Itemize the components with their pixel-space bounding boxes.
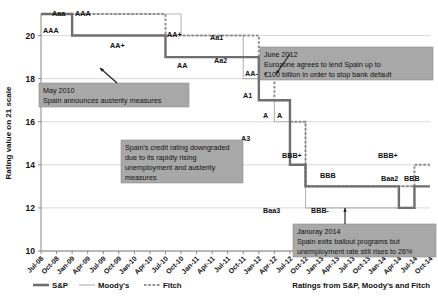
annotation-text-credit-downgrade-2: unemployment and austerity <box>125 163 216 172</box>
point-label-5: Aa1 <box>210 33 223 42</box>
xtick-label-11: Apr-11 <box>196 255 217 276</box>
ytick-label-12: 12 <box>26 203 36 213</box>
point-label-16: BBB <box>320 171 336 180</box>
ytick-label-18: 18 <box>26 74 36 84</box>
legend-item-moodys[interactable]: Moody's <box>79 281 130 290</box>
point-label-14: BBB+ <box>282 151 302 160</box>
legend-label-1: Moody's <box>98 281 130 290</box>
point-label-4: AA+ <box>167 30 182 39</box>
point-label-7: Aa2 <box>214 56 227 65</box>
point-label-6: AA <box>177 61 187 70</box>
ytick-label-14: 14 <box>26 160 36 170</box>
point-label-3: AA+ <box>110 41 125 50</box>
point-label-20: BBB- <box>311 206 330 215</box>
annotation-text-june-2012-0: June 2012 <box>264 50 298 59</box>
point-label-8: AA- <box>245 69 258 78</box>
point-label-15: BBB+ <box>378 151 398 160</box>
annotation-text-january-2014-2: unemployment rate still rises to 26% <box>297 247 413 256</box>
rating-chart: 101214161820Rating value on 21 scaleJul-… <box>0 0 438 300</box>
source-note: Ratings from S&P, Moody's and Fitch <box>292 281 430 290</box>
annotation-text-january-2014-1: Spain exits bailout programs but <box>297 237 400 246</box>
ytick-label-20: 20 <box>26 31 36 41</box>
legend-item-fitch[interactable]: Fitch <box>144 281 182 290</box>
point-label-18: BBB <box>404 174 420 183</box>
annotation-text-credit-downgrade-1: due to its rapidly rising <box>125 153 197 162</box>
legend-label-0: S&P <box>52 281 68 290</box>
ytick-label-10: 10 <box>26 246 36 256</box>
annotation-text-may-2010-1: Spain announces austerity measures <box>43 96 162 105</box>
point-label-12: A <box>277 111 282 120</box>
y-axis-title: Rating value on 21 scale <box>4 86 13 179</box>
annotation-text-june-2012-1: Eurozone agrees to lend Spain up to <box>264 60 381 69</box>
point-label-2: AAA <box>43 26 59 35</box>
point-label-0: Aaa <box>52 9 66 18</box>
ytick-label-16: 16 <box>26 117 36 127</box>
annotation-text-january-2014-0: Januray 2014 <box>297 227 341 236</box>
point-label-1: AAA <box>75 9 91 18</box>
annotation-text-june-2012-2: €100 billion in order to stop bank defau… <box>264 70 391 79</box>
point-label-10: A1 <box>243 91 252 100</box>
annotation-text-may-2010-0: May 2010 <box>43 86 75 95</box>
chart-canvas: 101214161820Rating value on 21 scaleJul-… <box>0 0 438 300</box>
xtick-label-25: Oct-14 <box>413 255 433 275</box>
legend-item-sp[interactable]: S&P <box>33 281 68 290</box>
annotation-text-credit-downgrade-0: Spain's credit rating downgraded <box>125 143 229 152</box>
point-label-17: Baa2 <box>381 174 398 183</box>
point-label-11: A <box>263 111 268 120</box>
annotation-text-credit-downgrade-3: measures <box>125 173 157 182</box>
legend-label-2: Fitch <box>163 281 182 290</box>
point-label-19: Baa3 <box>263 206 280 215</box>
